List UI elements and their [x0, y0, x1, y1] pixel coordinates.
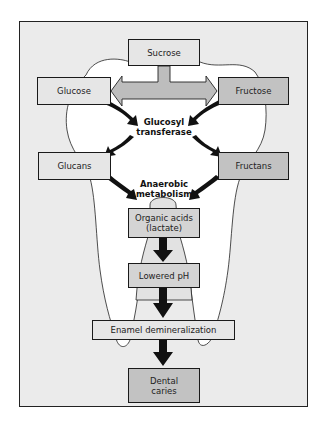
node-enamel-label: Enamel demineralization [111, 325, 217, 335]
node-enamel-demineralization: Enamel demineralization [92, 320, 235, 340]
organic-acids-line2: (lactate) [146, 223, 182, 233]
dental-caries-line2: caries [151, 386, 176, 396]
node-lowered-ph-label: Lowered pH [139, 271, 189, 281]
node-glucose: Glucose [37, 77, 111, 105]
anaerobic-line2: metabolism [128, 189, 200, 199]
node-fructans: Fructans [218, 152, 289, 180]
node-glucans-label: Glucans [57, 161, 91, 171]
node-sucrose: Sucrose [128, 39, 200, 66]
glucosyl-line2: transferase [128, 127, 200, 137]
process-glucosyl-transferase: Glucosyl transferase [128, 117, 200, 137]
node-fructans-label: Fructans [235, 161, 271, 171]
node-glucose-label: Glucose [57, 86, 91, 96]
node-dental-caries: Dental caries [128, 368, 200, 403]
node-glucans: Glucans [38, 152, 111, 180]
node-fructose-label: Fructose [235, 86, 271, 96]
organic-acids-line1: Organic acids [135, 213, 193, 223]
glucosyl-line1: Glucosyl [128, 117, 200, 127]
node-organic-acids: Organic acids (lactate) [128, 208, 200, 238]
anaerobic-line1: Anaerobic [128, 179, 200, 189]
process-anaerobic-metabolism: Anaerobic metabolism [128, 179, 200, 199]
dental-caries-line1: Dental [150, 376, 178, 386]
node-lowered-ph: Lowered pH [128, 263, 200, 288]
node-fructose: Fructose [218, 77, 289, 105]
node-sucrose-label: Sucrose [147, 48, 181, 58]
